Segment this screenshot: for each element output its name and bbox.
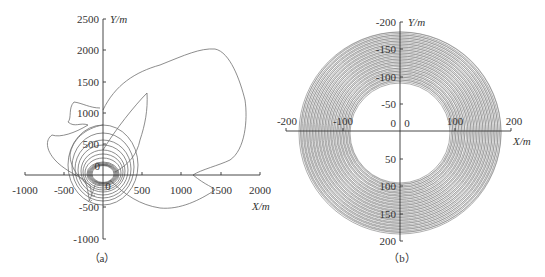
x-tick-b: -100 — [333, 115, 354, 127]
caption-b: （b） — [388, 252, 416, 264]
x-tick-a: -500 — [54, 184, 75, 196]
y-tick-b: -100 — [376, 71, 397, 83]
figure-canvas: 2500 2000 1500 1000 500 0 -500 -1000 -10… — [0, 0, 545, 277]
y-tick-a: -500 — [79, 201, 100, 213]
x-tick-a: 2000 — [249, 184, 272, 196]
y-tick-b: 0 — [391, 117, 397, 129]
y-tick-b: 50 — [385, 153, 397, 165]
y-axis-label-b: Y/m — [408, 16, 425, 28]
y-tick-a: -1000 — [73, 233, 99, 245]
annulus-rings-offset — [301, 32, 501, 232]
caption-a: （a） — [89, 252, 116, 264]
x-tick-b: 200 — [506, 115, 523, 127]
y-tick-a: 2500 — [77, 13, 100, 25]
chart-a: 2500 2000 1500 1000 500 0 -500 -1000 -10… — [12, 13, 271, 264]
petal-loop-curve — [103, 93, 147, 172]
y-tick-b: -200 — [376, 16, 397, 28]
y-tick-a: 0 — [95, 160, 101, 172]
x-tick-b: 0 — [404, 117, 410, 129]
x-tick-a: -1000 — [12, 184, 38, 196]
x-tick-b: -200 — [277, 115, 298, 127]
y-tick-a: 500 — [83, 138, 100, 150]
chart-a-axes — [25, 19, 260, 239]
x-axis-label-b: X/m — [512, 135, 531, 147]
x-tick-b: 100 — [447, 115, 464, 127]
y-tick-b: 200 — [380, 235, 397, 247]
y-tick-b: 150 — [380, 208, 397, 220]
x-tick-a: 500 — [134, 184, 151, 196]
y-tick-a: 1000 — [77, 107, 100, 119]
x-tick-a: 1000 — [170, 184, 193, 196]
x-axis-label-a: X/m — [251, 200, 270, 212]
chart-b: -200 -150 -100 -50 0 50 100 150 200 -200… — [277, 16, 531, 264]
y-axis-label-a: Y/m — [110, 13, 127, 25]
y-tick-a: 2000 — [77, 44, 100, 56]
y-tick-b: -50 — [381, 98, 396, 110]
y-tick-a: 1500 — [77, 76, 100, 88]
y-tick-b: 100 — [380, 180, 397, 192]
x-tick-a: 0 — [105, 180, 111, 192]
y-tick-b: -150 — [376, 43, 397, 55]
x-tick-a: 1500 — [210, 184, 233, 196]
